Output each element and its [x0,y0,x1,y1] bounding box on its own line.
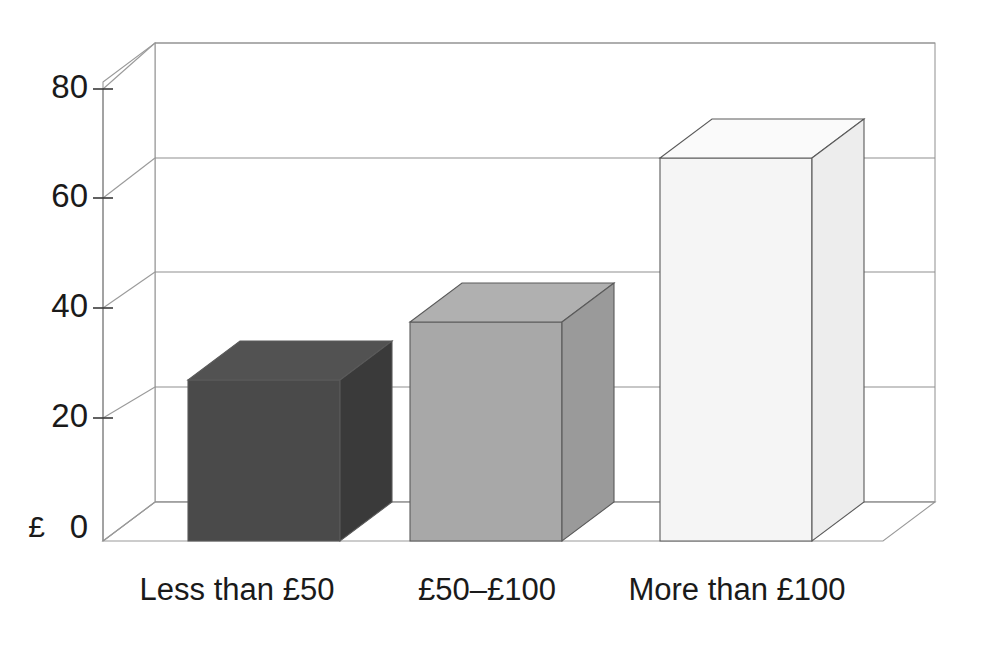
chart-left-panel [103,43,155,541]
bar-3-side-face [812,119,864,541]
y-tick-label-60: 60 [51,177,88,214]
x-axis-labels: Less than £50 £50–£100 More than £100 [140,572,846,607]
x-category-label-1: £50–£100 [418,572,556,607]
bar-2-side-face [562,283,614,541]
y-tick-label-40: 40 [51,287,88,324]
bar-3-more-than-100[interactable] [660,119,864,541]
bar-1-less-than-50[interactable] [188,341,392,541]
bar-2-50-to-100[interactable] [410,283,614,541]
bar-1-front-face [188,380,340,541]
x-category-label-2: More than £100 [628,572,845,607]
bar-2-front-face [410,322,562,541]
bar-chart-3d: 80 60 40 20 0 £ [0,0,984,657]
bar-3-front-face [660,158,812,541]
y-axis-labels: 80 60 40 20 0 £ [28,68,88,545]
y-axis-unit-label: £ [28,510,45,543]
y-tick-label-20: 20 [51,397,88,434]
chart-container: 80 60 40 20 0 £ [0,0,984,657]
y-tick-label-80: 80 [51,68,88,105]
y-tick-label-0: 0 [70,508,88,545]
x-category-label-0: Less than £50 [140,572,335,607]
